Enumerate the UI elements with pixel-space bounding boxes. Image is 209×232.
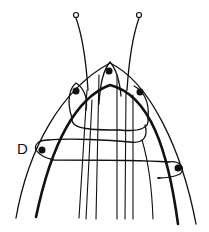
fiber	[96, 75, 99, 219]
neuron-diagram	[0, 0, 209, 232]
nucleus-right	[137, 89, 144, 96]
fiber	[125, 90, 126, 219]
nucleus-d	[39, 147, 46, 154]
antenna-tip-left	[74, 13, 79, 18]
loop-upper	[72, 118, 148, 131]
nucleus-top	[106, 68, 113, 75]
antenna-tip-right	[137, 13, 142, 18]
label-d: D	[17, 140, 28, 157]
nucleus-right-lower	[175, 165, 182, 172]
inner-thick-arch	[36, 85, 178, 224]
fiber	[142, 140, 153, 219]
nucleus-left	[73, 88, 80, 95]
